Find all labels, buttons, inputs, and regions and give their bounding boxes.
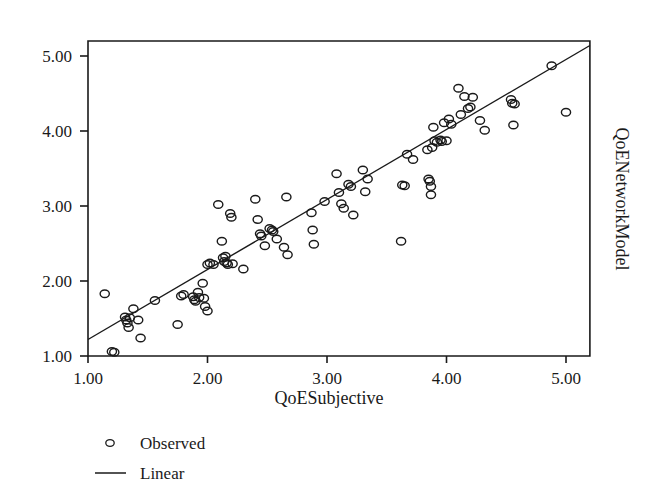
data-point bbox=[426, 191, 435, 199]
data-point bbox=[475, 117, 484, 125]
data-point bbox=[480, 126, 489, 134]
data-point bbox=[456, 111, 465, 119]
data-point bbox=[454, 84, 463, 92]
data-point bbox=[198, 279, 207, 287]
linear-fit-line bbox=[88, 46, 590, 340]
legend-observed-marker-icon bbox=[106, 440, 114, 447]
x-tick-label: 5.00 bbox=[551, 369, 581, 388]
data-point bbox=[282, 193, 291, 201]
data-point bbox=[337, 200, 346, 208]
data-point bbox=[349, 211, 358, 219]
y-axis-ticks bbox=[80, 56, 88, 356]
data-point bbox=[214, 201, 223, 209]
data-point bbox=[239, 265, 248, 273]
x-tick-label: 4.00 bbox=[432, 369, 462, 388]
data-point bbox=[308, 226, 317, 234]
x-axis-tick-labels: 1.002.003.004.005.00 bbox=[73, 369, 581, 388]
data-point bbox=[358, 166, 367, 174]
data-point bbox=[396, 237, 405, 245]
data-point bbox=[260, 242, 269, 250]
x-tick-label: 1.00 bbox=[73, 369, 103, 388]
x-tick-label: 3.00 bbox=[312, 369, 342, 388]
data-point bbox=[408, 156, 417, 164]
data-point bbox=[201, 303, 210, 311]
x-axis-ticks bbox=[88, 356, 566, 363]
y-tick-label: 4.00 bbox=[42, 122, 72, 141]
data-point bbox=[251, 195, 260, 203]
x-axis-title: QoESubjective bbox=[275, 388, 384, 408]
data-point bbox=[361, 188, 370, 196]
data-point bbox=[309, 240, 318, 248]
chart-legend: Observed Linear bbox=[95, 434, 206, 483]
data-point bbox=[136, 334, 145, 342]
data-point bbox=[509, 121, 518, 129]
scatter-plot-figure: 1.002.003.004.005.00 1.002.003.004.005.0… bbox=[0, 0, 649, 501]
y-tick-label: 2.00 bbox=[42, 272, 72, 291]
data-point bbox=[332, 170, 341, 178]
data-point bbox=[124, 324, 133, 332]
data-point bbox=[173, 321, 182, 329]
data-point bbox=[129, 305, 138, 313]
data-point bbox=[339, 204, 348, 212]
y-axis-title: QoENetworkModel bbox=[612, 128, 632, 271]
data-point bbox=[279, 243, 288, 251]
data-point bbox=[100, 290, 109, 298]
data-point bbox=[561, 108, 570, 116]
data-point bbox=[203, 307, 212, 315]
data-point bbox=[466, 103, 475, 111]
y-axis-tick-labels: 1.002.003.004.005.00 bbox=[42, 47, 72, 366]
data-point bbox=[429, 123, 438, 131]
data-point bbox=[253, 216, 262, 224]
regression-line bbox=[88, 46, 590, 340]
plot-frame bbox=[88, 41, 590, 356]
data-point bbox=[179, 291, 188, 299]
legend-linear-label: Linear bbox=[140, 464, 185, 483]
data-point bbox=[283, 251, 292, 259]
y-tick-label: 5.00 bbox=[42, 47, 72, 66]
data-point bbox=[426, 183, 435, 191]
data-point bbox=[272, 235, 281, 243]
y-tick-label: 3.00 bbox=[42, 197, 72, 216]
y-tick-label: 1.00 bbox=[42, 347, 72, 366]
data-point bbox=[217, 237, 226, 245]
legend-observed-label: Observed bbox=[140, 434, 206, 453]
chart-canvas: 1.002.003.004.005.00 1.002.003.004.005.0… bbox=[0, 0, 649, 501]
x-tick-label: 2.00 bbox=[193, 369, 223, 388]
observed-data-points bbox=[100, 62, 570, 356]
data-point bbox=[134, 316, 143, 324]
data-point bbox=[307, 209, 316, 217]
data-point bbox=[346, 183, 355, 191]
